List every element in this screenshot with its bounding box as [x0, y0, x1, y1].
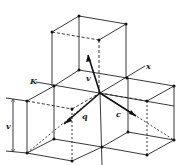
lattice-diagram: K x v q c v: [0, 0, 176, 165]
dimension-label: v: [6, 122, 11, 130]
vector-up-label: v: [86, 74, 91, 82]
vector-right-label: c: [116, 110, 121, 118]
vector-left-label: q: [82, 112, 88, 120]
k-axis-label: K: [30, 77, 37, 85]
x-axis-label: x: [146, 62, 151, 70]
